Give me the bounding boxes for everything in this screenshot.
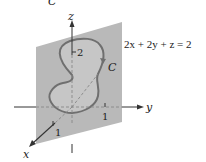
y-axis-arrow-icon: [137, 105, 144, 110]
x-axis-label: x: [23, 148, 30, 161]
z-axis-label: z: [67, 10, 74, 23]
z-tick-label: 2: [77, 47, 83, 58]
curve-label: C: [108, 61, 117, 74]
y-axis-label: y: [145, 101, 153, 114]
diagram-canvas: C z 2 y 1 x 1 C 2x + 2y + z = 2: [0, 0, 206, 162]
plane-equation: 2x + 2y + z = 2: [124, 38, 192, 50]
x-tick-label: 1: [55, 127, 61, 138]
top-fragment-label: C: [48, 0, 57, 8]
y-tick-label: 1: [102, 111, 108, 122]
